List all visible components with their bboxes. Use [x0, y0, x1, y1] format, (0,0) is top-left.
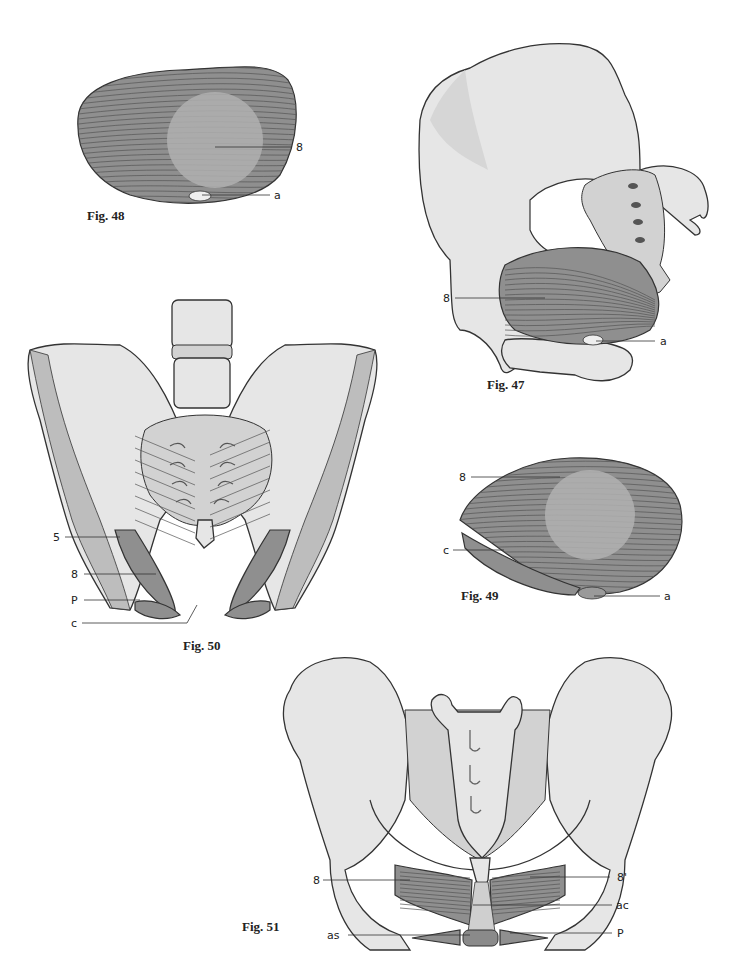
anal-sphincter: [463, 930, 498, 946]
opening-a: [583, 335, 603, 345]
plate-canvas: 8 a Fig. 48 8 a Fig. 47: [0, 0, 730, 966]
label-8: 8: [296, 141, 303, 154]
figure-caption: Fig. 50: [183, 638, 221, 653]
lumbar-vertebra-upper: [172, 300, 232, 348]
figure-50: 5 8 P c Fig. 50: [28, 300, 377, 653]
label-8-prime: 8': [617, 871, 627, 884]
figure-caption: Fig. 51: [242, 919, 280, 934]
label-c: c: [443, 544, 449, 557]
coccyx: [196, 520, 214, 548]
right-hip-bone: [545, 658, 672, 950]
label-ac: ac: [616, 899, 629, 912]
muscle-center-shading: [167, 92, 263, 188]
figure-caption: Fig. 47: [487, 377, 525, 392]
label-a: a: [274, 189, 281, 202]
label-P: P: [71, 594, 78, 607]
figure-49: 8 c a Fig. 49: [443, 458, 690, 609]
label-8: 8: [71, 568, 78, 581]
levator-muscle: [499, 248, 658, 345]
left-perineal-muscle: [412, 930, 460, 945]
lumbar-vertebra-lower: [174, 358, 230, 408]
label-a: a: [664, 590, 671, 603]
label-as: as: [327, 929, 340, 942]
opening-a: [189, 191, 211, 201]
figure-caption: Fig. 49: [461, 588, 499, 603]
figure-47: 8 a Fig. 47: [419, 44, 708, 392]
label-8: 8: [313, 874, 320, 887]
left-hip-bone: [283, 658, 410, 950]
intervertebral-disc: [172, 345, 232, 359]
right-perineal-muscle: [500, 930, 548, 945]
muscle-center-shading: [545, 470, 635, 560]
label-8: 8: [459, 471, 466, 484]
figure-51: 8 8' ac as P Fig. 51: [242, 658, 672, 950]
opening-a: [578, 587, 606, 599]
label-5: 5: [53, 531, 60, 544]
fiber-line: [455, 603, 690, 609]
label-8: 8: [443, 292, 450, 305]
ischium: [502, 339, 633, 381]
figure-48: 8 a Fig. 48: [70, 67, 303, 223]
label-c: c: [71, 617, 77, 630]
figure-caption: Fig. 48: [87, 208, 125, 223]
label-P: P: [617, 927, 624, 940]
label-a: a: [660, 335, 667, 348]
